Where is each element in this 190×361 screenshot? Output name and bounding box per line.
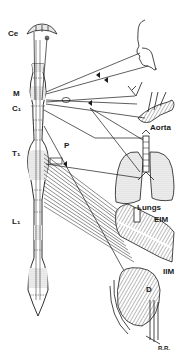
label-lumbar-1: L₁ — [12, 218, 20, 226]
face-profile — [137, 20, 156, 70]
label-medulla: M — [13, 90, 20, 98]
nerves-to-face — [46, 53, 148, 94]
label-phrenic: P — [64, 142, 69, 150]
label-diaphragm: D — [146, 286, 152, 294]
label-aorta: Aorta — [150, 124, 171, 132]
spinal-cord — [28, 40, 49, 316]
arrowheads — [63, 72, 108, 167]
label-cerebrum: Ce — [8, 30, 18, 38]
label-thoracic-1: T₁ — [12, 150, 20, 158]
label-external-intercostal: EIM — [154, 216, 168, 224]
diaphragm-shape — [110, 268, 160, 344]
label-internal-intercostal: IIM — [163, 268, 174, 276]
lungs-shape — [115, 130, 174, 204]
cerebrum-shape — [27, 24, 57, 40]
label-cervical-1: C₁ — [12, 105, 21, 113]
label-lungs: Lungs — [137, 204, 161, 212]
diagram-canvas — [0, 0, 190, 361]
label-rr: R.R. — [158, 345, 170, 351]
